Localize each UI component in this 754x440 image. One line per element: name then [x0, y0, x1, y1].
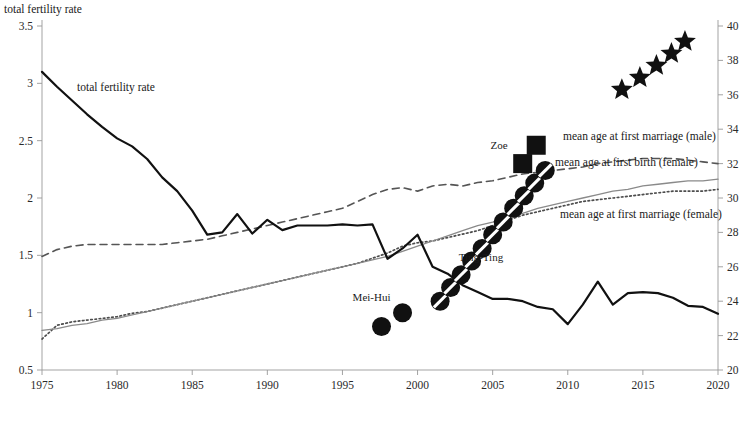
y-tick-label-right: 24 — [727, 295, 739, 307]
y-tick-label-right: 32 — [727, 158, 739, 170]
x-tick-label: 2015 — [631, 379, 654, 391]
x-tick-label: 1995 — [331, 379, 354, 391]
male-marriage-inline-label: mean age at first marriage (male) — [563, 130, 716, 143]
y-tick-label-right: 30 — [727, 192, 739, 204]
x-tick-label: 1990 — [256, 379, 279, 391]
y-tick-label-left: 1.5 — [19, 249, 34, 261]
female-marriage-inline-label: mean age at first marriage (female) — [560, 208, 722, 221]
y-tick-label-left: 2.5 — [19, 135, 34, 147]
y-tick-label-left: 3.5 — [19, 20, 34, 32]
tfr-inline-label: total fertility rate — [77, 81, 155, 94]
marker-filled-circle — [393, 303, 412, 322]
y-axis-left-title: total fertility rate — [4, 3, 82, 16]
y-tick-label-right: 34 — [727, 123, 739, 135]
y-tick-label-left: 0.5 — [19, 364, 34, 376]
y-tick-label-right: 22 — [727, 330, 739, 342]
marker-star — [660, 42, 682, 63]
marker-label-ting-ting: Ting-Ting — [459, 251, 504, 263]
marker-filled-circle — [372, 317, 391, 336]
x-tick-label: 2005 — [481, 379, 504, 391]
y-tick-label-right: 40 — [727, 20, 739, 32]
y-tick-label-left: 1 — [27, 307, 33, 319]
figure-root: total fertility rate0.511.522.533.520222… — [0, 0, 754, 440]
series-solid-light — [42, 179, 718, 330]
chart-canvas: total fertility rate0.511.522.533.520222… — [0, 0, 754, 440]
y-tick-label-right: 38 — [727, 54, 739, 66]
marker-filled-square — [513, 154, 532, 173]
x-tick-label: 1980 — [106, 379, 129, 391]
marker-star — [629, 66, 651, 87]
x-tick-label: 2020 — [707, 379, 730, 391]
marker-label-zoe: Zoe — [491, 139, 508, 151]
x-tick-label: 2000 — [406, 379, 429, 391]
x-tick-label: 1985 — [181, 379, 204, 391]
first-birth-inline-label: mean age at first birth (female) — [555, 156, 698, 169]
x-tick-label: 2010 — [556, 379, 579, 391]
y-tick-label-right: 28 — [727, 226, 739, 238]
marker-star — [645, 54, 667, 75]
marker-slashed-circle — [536, 161, 555, 180]
x-tick-label: 1975 — [31, 379, 54, 391]
y-tick-label-left: 2 — [27, 192, 33, 204]
y-tick-label-left: 3 — [27, 77, 33, 89]
y-tick-label-right: 20 — [727, 364, 739, 376]
y-tick-label-right: 36 — [727, 89, 739, 101]
marker-star — [611, 78, 633, 99]
marker-star — [674, 30, 696, 51]
marker-filled-square — [527, 136, 546, 155]
marker-label-mei-hui: Mei-Hui — [353, 291, 391, 303]
y-tick-label-right: 26 — [727, 261, 739, 273]
